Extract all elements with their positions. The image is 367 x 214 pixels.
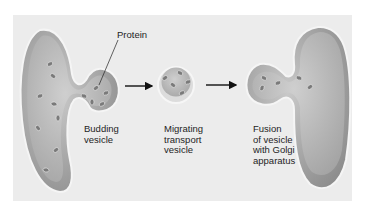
migrating-vesicle xyxy=(158,67,194,103)
fusion-label: Fusion of vesicle with Golgi apparatus xyxy=(253,124,295,166)
vesicle-transport-illustration xyxy=(0,0,367,214)
budding-vesicle-label: Budding vesicle xyxy=(84,124,119,145)
protein-label: Protein xyxy=(117,30,147,41)
source-organelle xyxy=(21,30,119,192)
migrating-vesicle-label: Migrating transport vesicle xyxy=(164,124,203,156)
